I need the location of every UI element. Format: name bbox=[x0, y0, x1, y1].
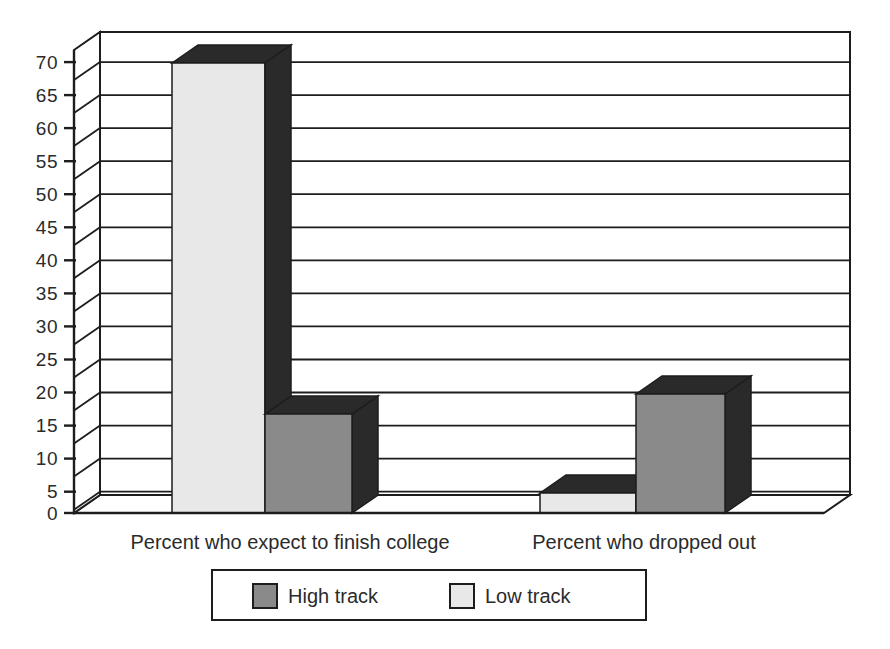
y-tick-label: 5 bbox=[47, 481, 58, 502]
bar-side-face bbox=[352, 396, 378, 513]
legend-label-high-track: High track bbox=[288, 585, 379, 607]
bar-side-face bbox=[725, 376, 751, 513]
bar-front-face bbox=[540, 493, 636, 513]
y-tick-label: 55 bbox=[36, 151, 58, 172]
y-tick-label: 10 bbox=[36, 448, 58, 469]
category-label-dropped-out: Percent who dropped out bbox=[532, 531, 756, 553]
y-tick-label: 20 bbox=[36, 382, 58, 403]
legend-swatch-high-track bbox=[253, 584, 277, 608]
legend: High track Low track bbox=[212, 570, 646, 620]
legend-item-low-track[interactable]: Low track bbox=[450, 584, 572, 608]
bar-low-track-side-face-expect-college bbox=[265, 45, 291, 414]
bar-front-face bbox=[265, 414, 352, 513]
legend-swatch-low-track bbox=[450, 584, 474, 608]
category-labels: Percent who expect to finish college Per… bbox=[130, 531, 756, 553]
y-axis-tick-labels: 70 65 60 55 50 45 40 35 30 25 20 15 10 5… bbox=[36, 52, 58, 524]
y-tick-label: 45 bbox=[36, 217, 58, 238]
category-label-expect-college: Percent who expect to finish college bbox=[130, 531, 449, 553]
legend-item-high-track[interactable]: High track bbox=[253, 584, 379, 608]
y-tick-label: 50 bbox=[36, 184, 58, 205]
y-tick-label: 40 bbox=[36, 250, 58, 271]
bar-chart-figure: 70 65 60 55 50 45 40 35 30 25 20 15 10 5… bbox=[0, 0, 890, 649]
y-tick-label: 30 bbox=[36, 316, 58, 337]
y-tick-label: 35 bbox=[36, 283, 58, 304]
y-tick-label: 25 bbox=[36, 349, 58, 370]
bar-front-face bbox=[636, 394, 725, 513]
legend-label-low-track: Low track bbox=[485, 585, 572, 607]
bar-high-track-dropped-out[interactable] bbox=[636, 376, 751, 513]
y-tick-label: 60 bbox=[36, 118, 58, 139]
y-tick-label: 65 bbox=[36, 85, 58, 106]
y-tick-label: 0 bbox=[47, 503, 58, 524]
y-tick-label: 70 bbox=[36, 52, 58, 73]
y-tick-label: 15 bbox=[36, 415, 58, 436]
bar-front-face bbox=[172, 63, 265, 513]
bar-high-track-expect-college[interactable] bbox=[265, 396, 378, 513]
